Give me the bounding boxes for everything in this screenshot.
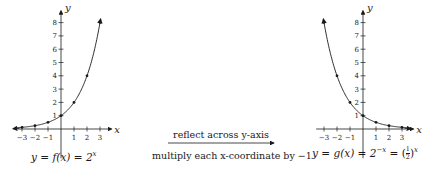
y-tick-label: 3 [53,86,57,94]
x-tick-label: 2 [387,134,391,142]
data-point [336,74,339,77]
data-point [86,74,89,77]
left-caption: y = f(x) = 2x [31,150,97,163]
graphs-canvas: −3−2−112312345678xy −3−2−112312345678xy [0,0,426,169]
data-point [388,124,391,127]
y-tick-label: 1 [355,112,359,120]
x-tick-label: −3 [319,134,329,142]
right-caption: y = g(x) = 2−x = (12)x [312,146,418,161]
y-tick-label: 3 [355,86,359,94]
x-tick-label: −1 [345,134,355,142]
data-point [323,21,326,24]
x-tick-label: −1 [43,134,53,142]
left-graph: −3−2−112312345678xy [13,2,120,158]
right-graph: −3−2−112312345678xy [316,2,422,158]
y-tick-label: 8 [53,19,57,27]
curve [323,19,407,128]
data-point [47,121,50,124]
data-point [34,124,37,127]
y-tick-label: 6 [53,46,58,54]
data-point [21,126,24,129]
x-tick-label: 2 [85,134,89,142]
data-point [73,101,76,104]
y-axis-label: y [366,2,373,13]
one-half-fraction: 12 [406,146,410,161]
transform-top-label: reflect across y-axis [165,129,277,140]
transform-bottom-label: multiply each x-coordinate by −1 [152,150,290,161]
data-point [60,114,63,117]
y-tick-label: 6 [355,46,360,54]
data-point [375,121,378,124]
x-tick-label: 1 [72,134,76,142]
x-tick-label: −2 [30,134,40,142]
data-point [99,21,102,24]
y-tick-label: 8 [355,19,359,27]
x-tick-label: −2 [332,134,342,142]
y-tick-label: 5 [53,59,57,67]
x-axis-label: x [114,124,120,135]
y-tick-label: 2 [53,99,57,107]
data-point [362,114,365,117]
y-tick-label: 5 [355,59,359,67]
x-tick-label: 3 [98,134,102,142]
y-tick-label: 4 [53,72,58,80]
y-tick-label: 4 [355,72,360,80]
y-tick-label: 7 [53,32,57,40]
curve [17,19,101,128]
y-axis-label: y [64,2,71,13]
y-tick-label: 7 [355,32,359,40]
x-tick-label: −3 [17,134,27,142]
y-tick-label: 2 [355,99,359,107]
data-point [349,101,352,104]
data-point [401,126,404,129]
x-tick-label: 1 [374,134,378,142]
x-tick-label: 3 [400,134,404,142]
x-axis-label: x [416,124,422,135]
